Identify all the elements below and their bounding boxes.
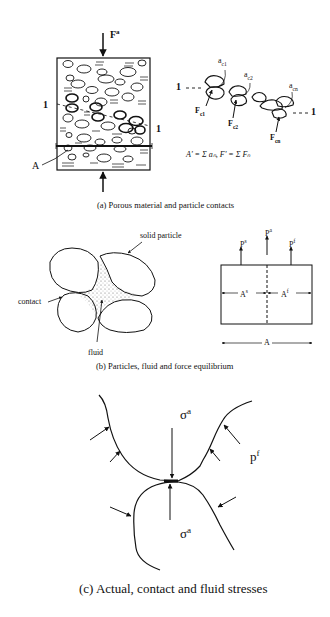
caption-b: (b) Particles, fluid and force equilibri… [96, 361, 233, 371]
chain-label-left: 1 [176, 81, 181, 92]
contact-area-1: ac1 [218, 56, 227, 67]
contact-area-n: acn [289, 81, 298, 92]
stress-lower-label: σa [180, 525, 191, 542]
caption-a: (a) Porous material and particle contact… [97, 200, 234, 210]
contact-label: contact [18, 297, 41, 306]
section-label-left: 1 [43, 99, 48, 110]
contact-sum-equation: A' = Σ aₙ, F' = Σ Fₙ [186, 150, 250, 159]
force-top-label: Fa [110, 28, 120, 40]
area-label: A [32, 160, 39, 171]
caption-c: (c) Actual, contact and fluid stresses [79, 581, 267, 597]
area-fluid-label: Af [281, 288, 289, 299]
force-solid-label: Ps [240, 238, 247, 249]
chain-label-right: 1 [311, 106, 316, 117]
section-label-right: 1 [156, 123, 161, 134]
particles-and-fluid [48, 242, 155, 342]
area-total-label: A [264, 338, 270, 347]
solid-particle-label: solid particle [140, 231, 182, 240]
diagram-canvas [0, 0, 330, 617]
contact-force-n: Fcn [270, 133, 280, 144]
fluid-pressure-label: pf [250, 448, 260, 465]
contact-force-1: Fc1 [195, 106, 205, 117]
force-fluid-label: Pf [289, 238, 295, 249]
area-solid-label: As [240, 288, 248, 299]
porous-material-block [42, 33, 152, 192]
stress-upper-label: σa [180, 406, 191, 423]
force-actual-label: Pa [265, 227, 272, 238]
stress-contact-sketch [90, 395, 252, 570]
force-equilibrium-box [221, 236, 312, 343]
contact-force-2: Fc2 [228, 119, 238, 130]
contact-area-2: ac2 [244, 70, 253, 81]
fluid-label: fluid [88, 348, 103, 357]
